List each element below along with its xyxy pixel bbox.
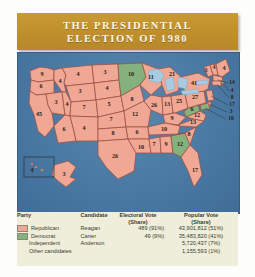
hawaii-inset-box bbox=[24, 157, 54, 177]
header-popular-vote: Popular Vote (Share) bbox=[164, 212, 238, 225]
label-WI: 11 bbox=[148, 73, 154, 80]
label-RI: 4 bbox=[231, 87, 234, 93]
label-IL: 26 bbox=[151, 101, 157, 108]
label-NC: 13 bbox=[190, 118, 196, 125]
label-VT: 3 bbox=[205, 67, 208, 73]
legend-candidate-carter: Carter bbox=[81, 233, 112, 241]
header-candidate: Candidate bbox=[81, 212, 112, 225]
legend-party-republican-label: Republican bbox=[31, 225, 59, 231]
label-MS: 7 bbox=[152, 140, 155, 147]
label-AR: 6 bbox=[135, 128, 138, 135]
header-party: Party bbox=[17, 212, 81, 225]
label-IA: 8 bbox=[130, 95, 133, 102]
label-NM: 4 bbox=[82, 124, 85, 131]
label-MO: 12 bbox=[132, 110, 138, 117]
label-MI: 21 bbox=[169, 70, 175, 77]
label-OH: 25 bbox=[176, 97, 182, 104]
title-banner: THE PRESIDENTIAL ELECTION OF 1980 bbox=[17, 13, 238, 50]
label-LA: 10 bbox=[138, 143, 144, 150]
map-figure: THE PRESIDENTIAL ELECTION OF 1980 bbox=[0, 0, 255, 277]
leader-line-MD bbox=[205, 108, 226, 119]
leader-line-DE bbox=[209, 104, 227, 112]
legend-popular-reagan: 43,901,812 (51%) bbox=[164, 225, 238, 233]
legend-row-democrat: Democrat Carter 49 (9%) 35,483,820 (41%) bbox=[17, 233, 238, 241]
legend-row-other: Other candidates 1,155,593 (1%) bbox=[17, 248, 238, 256]
leader-line-CT bbox=[217, 84, 229, 98]
label-AK: 3 bbox=[62, 170, 65, 177]
label-KS: 7 bbox=[109, 115, 112, 122]
legend-panel: Party Candidate Electoral Vote (Share) P… bbox=[17, 212, 238, 266]
label-ME: 4 bbox=[222, 64, 225, 71]
leader-line-NJ bbox=[211, 96, 228, 105]
header-popular-vote-line1: Popular Vote bbox=[164, 212, 238, 219]
legend-party-republican: Republican bbox=[17, 225, 81, 233]
legend-popular-anderson: 5,720,437 (7%) bbox=[164, 240, 238, 248]
hawaii-island-2 bbox=[35, 166, 37, 168]
legend-electoral-carter: 49 (9%) bbox=[112, 233, 164, 241]
label-MN: 10 bbox=[128, 70, 134, 77]
label-ID: 4 bbox=[58, 77, 61, 84]
label-GA: 12 bbox=[177, 140, 183, 147]
legend-party-independent: Independent bbox=[17, 240, 81, 248]
label-NV: 3 bbox=[54, 98, 57, 105]
header-popular-vote-line2: (Share) bbox=[164, 219, 238, 226]
header-electoral-vote: Electoral Vote (Share) bbox=[112, 212, 164, 225]
title-line-2: ELECTION OF 1980 bbox=[67, 32, 188, 45]
hawaii-island-3 bbox=[41, 169, 44, 172]
label-SC: 8 bbox=[187, 130, 190, 137]
legend-electoral-anderson bbox=[112, 240, 164, 248]
legend-row-republican: Republican Reagan 489 (91%) 43,901,812 (… bbox=[17, 225, 238, 233]
title-line-1: THE PRESIDENTIAL bbox=[63, 19, 192, 32]
label-MA: 14 bbox=[229, 79, 235, 85]
legend-popular-carter: 35,483,820 (41%) bbox=[164, 233, 238, 241]
label-OK: 8 bbox=[111, 129, 114, 136]
leader-line-RI bbox=[223, 83, 229, 91]
legend-electoral-reagan: 489 (91%) bbox=[112, 225, 164, 233]
label-SD: 4 bbox=[105, 84, 108, 91]
map-svg: 9 6 45 3 4 4 3 4 6 7 4 3 4 5 7 8 26 10 8… bbox=[18, 53, 239, 213]
legend-party-democrat: Democrat bbox=[17, 233, 81, 241]
hawaii-island-1 bbox=[31, 163, 33, 165]
legend-electoral-other bbox=[112, 248, 164, 256]
state-NJ bbox=[206, 90, 214, 101]
label-WY: 3 bbox=[78, 87, 81, 94]
legend-candidate-reagan: Reagan bbox=[81, 225, 112, 233]
label-NE: 5 bbox=[107, 100, 110, 107]
label-DE: 3 bbox=[230, 108, 233, 114]
legend-party-other-label: Other candidates bbox=[29, 248, 72, 254]
label-FL: 17 bbox=[192, 166, 198, 173]
header-electoral-vote-line2: (Share) bbox=[112, 219, 164, 226]
legend-party-independent-label: Independent bbox=[29, 240, 60, 246]
legend-table: Party Candidate Electoral Vote (Share) P… bbox=[17, 212, 238, 256]
label-NH: 4 bbox=[213, 64, 216, 70]
label-CO: 7 bbox=[82, 103, 85, 110]
label-MT: 4 bbox=[76, 70, 79, 77]
swatch-republican-icon bbox=[17, 225, 28, 232]
label-UT: 4 bbox=[65, 100, 68, 107]
label-CT: 8 bbox=[231, 94, 234, 100]
lake-huron bbox=[178, 77, 188, 89]
legend-party-democrat-label: Democrat bbox=[31, 233, 55, 239]
label-NY: 41 bbox=[191, 79, 197, 86]
legend-party-other: Other candidates bbox=[17, 248, 81, 256]
label-TN: 10 bbox=[161, 125, 167, 132]
label-IN: 13 bbox=[164, 100, 170, 107]
label-AL: 9 bbox=[164, 140, 167, 147]
label-AZ: 6 bbox=[62, 125, 65, 132]
state-CT bbox=[212, 81, 221, 86]
header-electoral-vote-line1: Electoral Vote bbox=[112, 212, 164, 219]
label-NJ: 17 bbox=[229, 101, 235, 107]
legend-header-row: Party Candidate Electoral Vote (Share) P… bbox=[17, 212, 238, 225]
label-ND: 3 bbox=[103, 68, 106, 75]
label-MD: 10 bbox=[228, 115, 234, 121]
label-HI: 4 bbox=[30, 166, 33, 173]
label-WA: 9 bbox=[40, 70, 43, 77]
lake-michigan bbox=[165, 77, 175, 91]
swatch-democrat-icon bbox=[17, 233, 28, 240]
us-electoral-map: 9 6 45 3 4 4 3 4 6 7 4 3 4 5 7 8 26 10 8… bbox=[17, 52, 240, 214]
label-TX: 26 bbox=[112, 152, 118, 159]
label-KY: 9 bbox=[170, 114, 173, 121]
legend-candidate-anderson: Anderson bbox=[81, 240, 112, 248]
lake-ontario bbox=[196, 80, 208, 85]
swatch-independent-placeholder bbox=[17, 241, 26, 246]
